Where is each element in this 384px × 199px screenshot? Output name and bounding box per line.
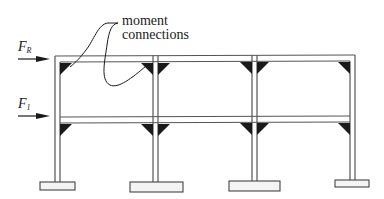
force-label-floor: F1 [18, 96, 31, 112]
moment-connections [60, 62, 350, 136]
force-subscript: R [27, 46, 32, 55]
connection-triangle [338, 123, 350, 135]
footing-2 [130, 182, 183, 192]
frame-diagram: moment connections FR F1 [0, 0, 384, 199]
frame-drawing [0, 0, 384, 199]
floor-beam [60, 116, 350, 123]
connection-triangle [158, 63, 170, 75]
force-symbol: F [18, 39, 27, 54]
annotation-connections: connections [122, 27, 189, 43]
connection-triangle [240, 123, 252, 135]
connection-triangle [338, 62, 350, 74]
connection-triangle [141, 124, 153, 136]
force-arrow-floor [18, 113, 50, 119]
connection-triangle [60, 63, 72, 75]
connection-triangle [158, 124, 170, 136]
footing-4 [335, 180, 369, 187]
roof-beam [55, 55, 355, 62]
force-arrow-roof [18, 56, 50, 62]
connection-triangle [257, 62, 269, 74]
connection-triangle [257, 123, 269, 135]
connection-triangle [60, 124, 72, 136]
column-4 [350, 55, 355, 180]
column-1 [55, 56, 60, 182]
column-3 [252, 61, 257, 181]
force-subscript: 1 [27, 103, 31, 112]
force-label-roof: FR [18, 39, 31, 55]
column-2 [153, 62, 158, 182]
footing-3 [229, 181, 280, 191]
force-symbol: F [18, 96, 27, 111]
footing-1 [40, 182, 75, 190]
connection-triangle [240, 62, 252, 74]
